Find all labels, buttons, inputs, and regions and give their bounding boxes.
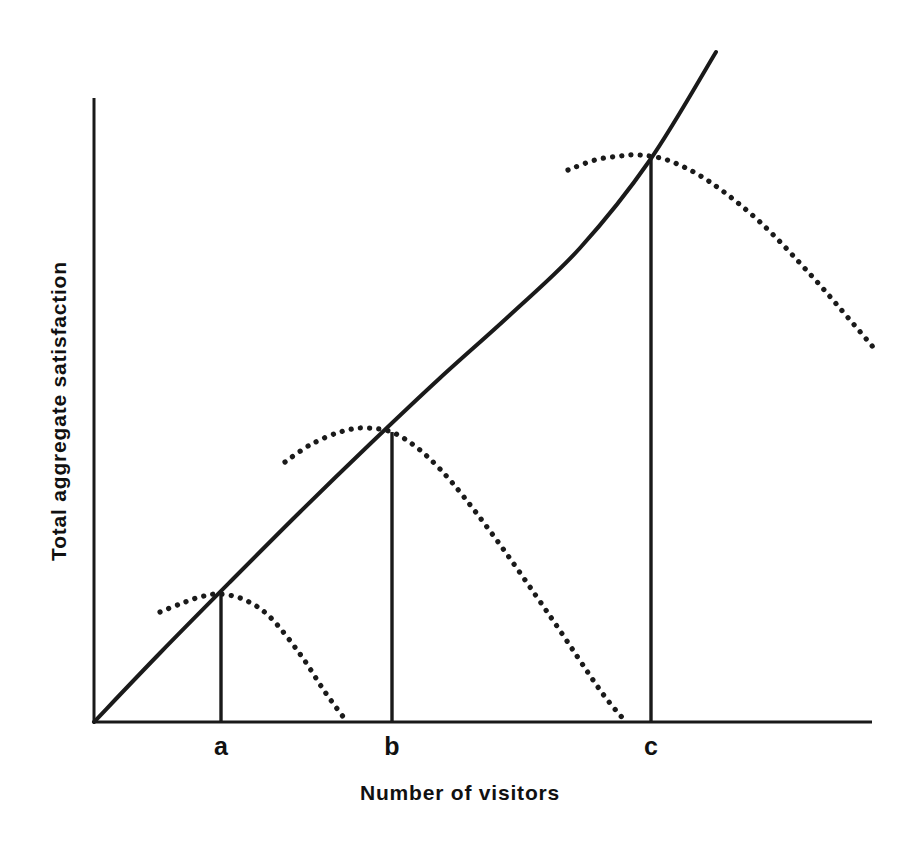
x-tick-label-b: b [362, 734, 422, 759]
chart-figure: a b c Number of visitors Total aggregate… [0, 0, 921, 855]
y-axis-title-wrapper: Total aggregate satisfaction [44, 236, 74, 586]
solid-aggregate-satisfaction-curve [94, 52, 716, 722]
plot-canvas [0, 0, 921, 855]
x-tick-label-c: c [621, 734, 681, 759]
x-axis-title: Number of visitors [260, 781, 660, 805]
dotted-curve-b [285, 428, 626, 722]
dotted-curve-a [160, 594, 347, 722]
y-axis-title: Total aggregate satisfaction [44, 236, 74, 586]
x-tick-label-a: a [191, 734, 251, 759]
dotted-curve-c [568, 155, 873, 347]
